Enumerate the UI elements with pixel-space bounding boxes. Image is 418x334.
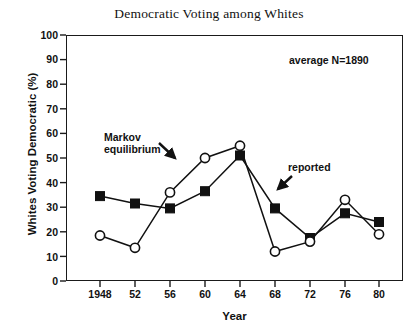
plot-area — [66, 35, 403, 281]
chart-figure: Democratic Voting among Whites 100 90 80… — [0, 0, 418, 334]
y-tick-label: 100 — [24, 30, 58, 40]
x-tick-label: 64 — [234, 288, 246, 300]
x-axis-ticks — [100, 281, 379, 287]
y-tick-label: 0 — [24, 276, 58, 286]
x-tick-label: 72 — [304, 288, 316, 300]
sample-size-note: average N=1890 — [289, 54, 369, 66]
x-tick-label: 1948 — [88, 288, 111, 300]
x-axis-label: Year — [66, 310, 403, 322]
x-tick-label: 60 — [199, 288, 211, 300]
x-tick-label: 68 — [269, 288, 281, 300]
reported-annotation: reported — [288, 161, 331, 173]
chart-title: Democratic Voting among Whites — [0, 6, 418, 22]
x-tick-label: 76 — [339, 288, 351, 300]
x-tick-label: 52 — [129, 288, 141, 300]
markov-annotation-line2: equilibrium — [104, 143, 161, 155]
y-axis-label: Whites Voting Democratic (%) — [26, 49, 38, 259]
markov-equilibrium-annotation: Markov equilibrium — [104, 131, 161, 155]
x-tick-label: 56 — [164, 288, 176, 300]
x-tick-label: 80 — [373, 288, 385, 300]
markov-annotation-line1: Markov — [104, 131, 161, 143]
